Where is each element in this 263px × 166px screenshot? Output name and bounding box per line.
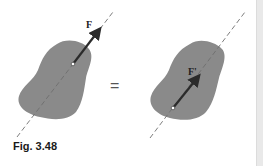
rigid-body-left bbox=[18, 41, 91, 120]
force-label-f-prime: F' bbox=[188, 66, 197, 77]
force-label-f: F bbox=[86, 19, 92, 30]
figure-caption: Fig. 3.48 bbox=[13, 140, 57, 152]
application-point-left bbox=[71, 62, 75, 66]
right-panel: F' bbox=[150, 12, 245, 138]
page-edge-bar bbox=[256, 0, 263, 166]
figure: F = F' Fig. 3.48 bbox=[0, 0, 263, 166]
rigid-body-right bbox=[150, 41, 224, 120]
application-point-right bbox=[171, 106, 175, 110]
equals-sign: = bbox=[110, 77, 119, 94]
left-panel: F bbox=[17, 12, 113, 137]
